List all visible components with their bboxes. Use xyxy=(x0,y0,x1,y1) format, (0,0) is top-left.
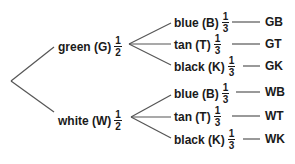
node-green-tan: tan (T) 1 3 xyxy=(174,34,221,55)
outcome-gt: GT xyxy=(265,37,282,51)
outcome-wt: WT xyxy=(265,109,284,123)
node-label: white (W) xyxy=(58,114,111,128)
node-white-blue: blue (B) 1 3 xyxy=(174,83,229,104)
outcome-wb: WB xyxy=(265,85,285,99)
branch-root-green xyxy=(11,47,54,81)
branch-green-blue xyxy=(129,23,171,44)
outcome-gk: GK xyxy=(265,59,283,73)
node-white-tan: tan (T) 1 3 xyxy=(174,106,221,127)
probability-fraction: 1 3 xyxy=(228,129,236,150)
probability-fraction: 1 3 xyxy=(222,12,230,33)
outcome-wk: WK xyxy=(265,132,285,146)
probability-fraction: 1 3 xyxy=(228,56,236,77)
tree-branches xyxy=(0,0,295,164)
branch-white-black xyxy=(131,117,171,138)
node-label: green (G) xyxy=(58,40,111,54)
outcome-gb: GB xyxy=(265,15,283,29)
node-green-black: black (K) 1 3 xyxy=(174,56,235,77)
branch-green-black xyxy=(129,44,171,65)
probability-fraction: 1 3 xyxy=(214,34,222,55)
node-green: green (G) 1 2 xyxy=(58,36,122,57)
node-green-blue: blue (B) 1 3 xyxy=(174,12,229,33)
probability-fraction: 1 3 xyxy=(222,83,230,104)
branch-root-white xyxy=(11,81,54,112)
node-white: white (W) 1 2 xyxy=(58,110,122,131)
node-white-black: black (K) 1 3 xyxy=(174,129,235,150)
probability-fraction: 1 3 xyxy=(214,106,222,127)
probability-fraction: 1 2 xyxy=(114,36,122,57)
probability-fraction: 1 2 xyxy=(114,110,122,131)
branch-white-blue xyxy=(131,95,171,117)
